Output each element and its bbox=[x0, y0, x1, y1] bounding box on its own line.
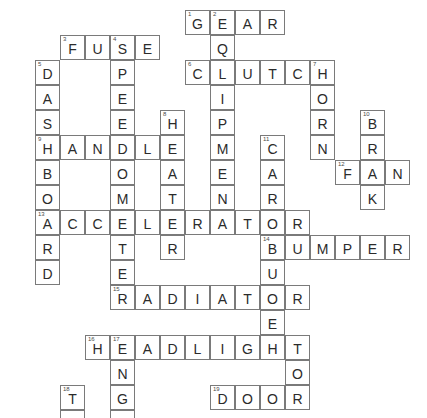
crossword-cell[interactable]: 12F bbox=[335, 160, 360, 185]
crossword-cell[interactable]: L bbox=[135, 135, 160, 160]
crossword-cell[interactable]: E bbox=[360, 235, 385, 260]
crossword-cell[interactable]: 1G bbox=[185, 10, 210, 35]
crossword-cell[interactable]: H bbox=[260, 335, 285, 360]
crossword-cell[interactable]: 5D bbox=[35, 60, 60, 85]
crossword-cell[interactable]: O bbox=[310, 85, 335, 110]
crossword-cell[interactable]: U bbox=[85, 35, 110, 60]
crossword-cell[interactable]: O bbox=[110, 160, 135, 185]
crossword-cell[interactable]: E bbox=[160, 210, 185, 235]
crossword-cell[interactable]: T bbox=[285, 335, 310, 360]
crossword-cell[interactable]: M bbox=[210, 135, 235, 160]
crossword-cell[interactable]: N bbox=[385, 160, 410, 185]
crossword-cell[interactable]: T bbox=[235, 210, 260, 235]
crossword-cell[interactable]: D bbox=[160, 335, 185, 360]
crossword-cell[interactable]: O bbox=[235, 385, 260, 410]
crossword-cell[interactable]: T bbox=[260, 60, 285, 85]
crossword-cell[interactable]: U bbox=[235, 60, 260, 85]
crossword-cell[interactable]: I bbox=[185, 285, 210, 310]
crossword-cell[interactable]: A bbox=[35, 85, 60, 110]
crossword-cell[interactable]: R bbox=[285, 210, 310, 235]
crossword-cell[interactable]: A bbox=[135, 285, 160, 310]
crossword-cell[interactable]: L bbox=[185, 335, 210, 360]
crossword-cell[interactable]: E bbox=[260, 310, 285, 335]
crossword-cell[interactable]: 14B bbox=[260, 235, 285, 260]
crossword-cell[interactable]: I bbox=[110, 410, 135, 418]
crossword-cell[interactable]: 10B bbox=[360, 110, 385, 135]
crossword-cell[interactable]: 19D bbox=[210, 385, 235, 410]
crossword-cell[interactable]: A bbox=[235, 10, 260, 35]
crossword-cell[interactable]: 2E bbox=[210, 10, 235, 35]
crossword-cell[interactable]: T bbox=[110, 235, 135, 260]
crossword-cell[interactable]: P bbox=[210, 110, 235, 135]
crossword-cell[interactable]: Q bbox=[210, 35, 235, 60]
crossword-cell[interactable]: E bbox=[110, 260, 135, 285]
crossword-cell[interactable]: M bbox=[310, 235, 335, 260]
crossword-cell[interactable]: 11C bbox=[260, 135, 285, 160]
crossword-cell[interactable]: S bbox=[35, 110, 60, 135]
crossword-cell[interactable]: 18T bbox=[60, 385, 85, 410]
crossword-cell[interactable]: R bbox=[385, 235, 410, 260]
crossword-cell[interactable]: R bbox=[260, 10, 285, 35]
crossword-cell[interactable]: R bbox=[185, 210, 210, 235]
crossword-cell[interactable]: N bbox=[310, 135, 335, 160]
crossword-cell[interactable]: R bbox=[310, 110, 335, 135]
crossword-cell[interactable]: R bbox=[160, 235, 185, 260]
crossword-cell[interactable]: K bbox=[360, 185, 385, 210]
crossword-cell[interactable]: A bbox=[210, 210, 235, 235]
crossword-cell[interactable]: 15R bbox=[110, 285, 135, 310]
crossword-cell[interactable]: 3F bbox=[60, 35, 85, 60]
crossword-cell[interactable]: E bbox=[210, 160, 235, 185]
crossword-cell[interactable]: T bbox=[160, 185, 185, 210]
crossword-cell[interactable]: 6C bbox=[185, 60, 210, 85]
crossword-cell[interactable]: E bbox=[160, 135, 185, 160]
crossword-cell[interactable]: I bbox=[210, 85, 235, 110]
crossword-grid[interactable]: 1G2EAR3FU4SEQ5DP6CLUTC7HAEIOSE8HPR10B9HA… bbox=[0, 0, 427, 418]
crossword-cell[interactable]: L bbox=[210, 60, 235, 85]
crossword-cell[interactable]: C bbox=[85, 210, 110, 235]
crossword-cell[interactable]: P bbox=[110, 60, 135, 85]
crossword-cell[interactable]: 7H bbox=[310, 60, 335, 85]
crossword-cell[interactable]: R bbox=[60, 410, 85, 418]
crossword-cell[interactable]: P bbox=[335, 235, 360, 260]
crossword-cell[interactable]: 8H bbox=[160, 110, 185, 135]
crossword-cell[interactable]: A bbox=[360, 160, 385, 185]
crossword-cell[interactable]: U bbox=[260, 260, 285, 285]
crossword-cell[interactable]: N bbox=[85, 135, 110, 160]
crossword-cell[interactable]: N bbox=[110, 360, 135, 385]
crossword-cell[interactable]: O bbox=[285, 360, 310, 385]
crossword-cell[interactable]: A bbox=[210, 285, 235, 310]
crossword-cell[interactable]: R bbox=[285, 285, 310, 310]
crossword-cell[interactable]: D bbox=[35, 260, 60, 285]
crossword-cell[interactable]: O bbox=[35, 185, 60, 210]
crossword-cell[interactable]: E bbox=[110, 110, 135, 135]
crossword-cell[interactable]: E bbox=[135, 35, 160, 60]
crossword-cell[interactable]: G bbox=[110, 385, 135, 410]
crossword-cell[interactable]: A bbox=[260, 160, 285, 185]
crossword-cell[interactable]: R bbox=[285, 385, 310, 410]
crossword-cell[interactable]: O bbox=[260, 285, 285, 310]
crossword-cell[interactable]: G bbox=[235, 335, 260, 360]
crossword-cell[interactable]: O bbox=[260, 210, 285, 235]
crossword-cell[interactable]: U bbox=[285, 235, 310, 260]
crossword-cell[interactable]: A bbox=[160, 160, 185, 185]
crossword-cell[interactable]: L bbox=[135, 210, 160, 235]
crossword-cell[interactable]: R bbox=[260, 185, 285, 210]
crossword-cell[interactable]: M bbox=[110, 185, 135, 210]
crossword-cell[interactable]: 9H bbox=[35, 135, 60, 160]
crossword-cell[interactable]: D bbox=[160, 285, 185, 310]
crossword-cell[interactable]: C bbox=[60, 210, 85, 235]
crossword-cell[interactable]: 16H bbox=[85, 335, 110, 360]
crossword-cell[interactable]: 4S bbox=[110, 35, 135, 60]
crossword-cell[interactable]: B bbox=[35, 160, 60, 185]
crossword-cell[interactable]: 13A bbox=[35, 210, 60, 235]
crossword-cell[interactable]: A bbox=[60, 135, 85, 160]
crossword-cell[interactable]: A bbox=[135, 335, 160, 360]
crossword-cell[interactable]: D bbox=[110, 135, 135, 160]
crossword-cell[interactable]: 17E bbox=[110, 335, 135, 360]
crossword-cell[interactable]: T bbox=[235, 285, 260, 310]
crossword-cell[interactable]: I bbox=[210, 335, 235, 360]
crossword-cell[interactable]: R bbox=[35, 235, 60, 260]
crossword-cell[interactable]: E bbox=[110, 210, 135, 235]
crossword-cell[interactable]: R bbox=[360, 135, 385, 160]
crossword-cell[interactable]: E bbox=[110, 85, 135, 110]
